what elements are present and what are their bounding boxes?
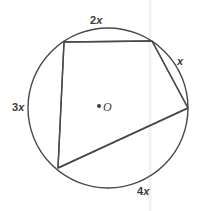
geometry-figure: 2x x 4x 3x O <box>0 0 204 211</box>
circle-diagram-canvas <box>0 0 204 211</box>
arc-label-left-variable: x <box>18 101 24 113</box>
arc-label-top: 2x <box>90 15 102 26</box>
chord-right <box>152 41 188 108</box>
chord-bottom <box>58 108 188 168</box>
chord-top <box>64 41 152 42</box>
chord-left <box>58 42 64 168</box>
arc-label-bottom-variable: x <box>143 185 149 197</box>
inscribed-quadrilateral <box>58 41 188 168</box>
center-point-dot <box>97 104 101 108</box>
arc-label-top-variable: x <box>96 14 102 26</box>
arc-label-left: 3x <box>12 102 24 113</box>
arc-label-bottom: 4x <box>137 186 149 197</box>
circle-center-label: O <box>103 101 112 113</box>
arc-label-right: x <box>177 56 183 67</box>
arc-label-right-variable: x <box>177 55 183 67</box>
